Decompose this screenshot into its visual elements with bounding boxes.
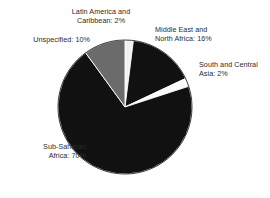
pie-label-south-and-central-asia: South and Central Asia: 2% — [199, 61, 265, 78]
pie-label-sub-saharan-africa: Sub-Saharan Africa: 70% — [8, 143, 86, 160]
pie-label-unspecified: Unspecified: 10% — [12, 36, 90, 45]
pie-label-latin-america-and-caribbean: Latin America and Caribbean: 2% — [55, 8, 147, 25]
pie-label-middle-east-and-north-africa: Middle East and North Africa: 16% — [155, 26, 233, 43]
pie-chart-figure: Latin America and Caribbean: 2% Middle E… — [0, 0, 270, 198]
